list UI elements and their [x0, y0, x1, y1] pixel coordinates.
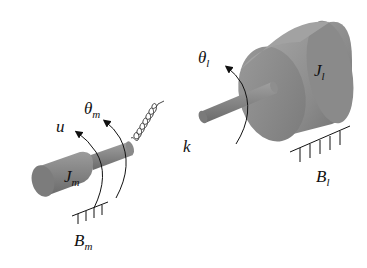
spring-label: k [183, 137, 191, 156]
load-damping-label: Bl [316, 167, 329, 188]
motor-inertia-cylinder [28, 152, 93, 200]
load-angle-label: θl [198, 48, 209, 69]
input-torque-label: u [56, 117, 65, 136]
motor-shaft [88, 140, 136, 170]
spring [131, 101, 164, 140]
load-inertia-cylinder [230, 17, 361, 148]
torsional-system-diagram: Jl θl θm u k Jm Bm Bl [0, 0, 367, 268]
motor-damping-label: Bm [74, 231, 92, 252]
motor-angle-label: θm [84, 99, 100, 120]
motor-damping-ground [72, 202, 108, 224]
